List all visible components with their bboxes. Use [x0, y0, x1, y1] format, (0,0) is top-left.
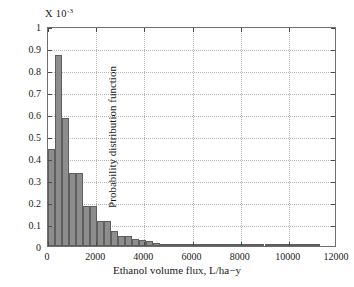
gridline-vertical — [289, 28, 290, 246]
histogram-bar — [76, 173, 83, 246]
gridline-horizontal — [48, 160, 335, 161]
histogram-bar — [69, 173, 76, 246]
gridline-horizontal — [48, 116, 335, 117]
x-axis-tick-top — [48, 28, 49, 32]
x-axis-tick — [48, 242, 49, 246]
y-axis-scale-label: X 10-3 — [45, 8, 73, 19]
histogram-bar — [90, 206, 97, 246]
histogram-bar — [83, 206, 90, 246]
histogram-bar — [251, 244, 258, 246]
y-axis-tick-right — [331, 182, 335, 183]
scale-exponent: -3 — [67, 7, 73, 15]
y-axis-tick-label: 0.7 — [0, 88, 41, 99]
histogram-bar — [306, 244, 313, 246]
histogram-bar — [118, 236, 125, 246]
x-axis-tick-label: 4000 — [133, 251, 153, 262]
y-axis-tick-right — [331, 204, 335, 205]
gridline-vertical — [241, 28, 242, 246]
y-axis-tick-label: 0.5 — [0, 132, 41, 143]
histogram-bar — [244, 244, 251, 246]
x-axis-tick-label: 10000 — [275, 251, 300, 262]
x-axis-tick — [241, 242, 242, 246]
y-axis-tick-label: 1 — [0, 22, 41, 33]
histogram-bar — [55, 55, 62, 246]
y-axis-tick-right — [331, 50, 335, 51]
histogram-bar — [223, 244, 230, 246]
x-axis-title: Ethanol volume flux, L/ha−y — [0, 264, 354, 276]
y-axis-tick-label: 0.4 — [0, 154, 41, 165]
x-axis-tick — [193, 242, 194, 246]
y-axis-tick — [48, 50, 52, 51]
y-axis-tick — [48, 72, 52, 73]
histogram-bar — [230, 244, 237, 246]
histogram-bar — [62, 118, 69, 246]
histogram-bar — [181, 244, 188, 246]
y-axis-tick-label: 0 — [0, 242, 41, 253]
histogram-bar — [132, 239, 139, 246]
y-axis-tick — [48, 116, 52, 117]
x-axis-tick — [144, 242, 145, 246]
gridline-vertical — [144, 28, 145, 246]
x-axis-tick-top — [144, 28, 145, 32]
y-axis-tick-label: 0.1 — [0, 220, 41, 231]
x-axis-tick — [289, 242, 290, 246]
gridline-horizontal — [48, 138, 335, 139]
histogram-bar — [209, 244, 216, 246]
gridline-vertical — [193, 28, 194, 246]
x-axis-tick-top — [289, 28, 290, 32]
y-axis-tick-right — [331, 160, 335, 161]
gridline-horizontal — [48, 50, 335, 51]
histogram-figure: X 10-3 00.10.20.30.40.50.60.70.80.91 020… — [0, 0, 354, 287]
histogram-bar — [278, 244, 285, 246]
y-axis-tick-label: 0.8 — [0, 66, 41, 77]
histogram-bar — [202, 244, 209, 246]
scale-mantissa: X 10 — [45, 8, 67, 19]
histogram-bar — [216, 244, 223, 246]
histogram-bar — [292, 244, 299, 246]
plot-area — [47, 27, 336, 247]
y-axis-tick-right — [331, 94, 335, 95]
y-axis-tick — [48, 138, 52, 139]
y-axis-tick-label: 0.9 — [0, 44, 41, 55]
x-axis-tick-top — [193, 28, 194, 32]
x-axis-tick-top — [241, 28, 242, 32]
histogram-bar — [313, 244, 320, 246]
gridline-horizontal — [48, 204, 335, 205]
histogram-bar — [258, 244, 265, 246]
x-axis-tick-label: 8000 — [230, 251, 250, 262]
y-axis-tick-label: 0.3 — [0, 176, 41, 187]
histogram-bar — [188, 244, 195, 246]
y-axis-tick-label: 0.2 — [0, 198, 41, 209]
gridline-horizontal — [48, 94, 335, 95]
histogram-bar — [174, 244, 181, 246]
x-axis-tick-label: 2000 — [85, 251, 105, 262]
y-axis-tick-right — [331, 28, 335, 29]
x-axis-tick-label: 6000 — [182, 251, 202, 262]
x-axis-tick-label: 12000 — [324, 251, 349, 262]
y-axis-tick — [48, 226, 52, 227]
y-axis-tick-right — [331, 226, 335, 227]
y-axis-tick-right — [331, 72, 335, 73]
histogram-bar — [48, 149, 55, 246]
histogram-bar — [160, 244, 167, 246]
histogram-bar — [195, 244, 202, 246]
histogram-bar — [265, 244, 272, 246]
y-axis-tick — [48, 204, 52, 205]
histogram-bar — [146, 241, 153, 246]
y-axis-tick — [48, 182, 52, 183]
histogram-bar — [125, 236, 132, 246]
y-axis-tick — [48, 94, 52, 95]
histogram-bar — [97, 221, 104, 246]
gridline-horizontal — [48, 72, 335, 73]
y-axis-tick-right — [331, 138, 335, 139]
histogram-bar — [271, 244, 278, 246]
x-axis-tick — [96, 242, 97, 246]
histogram-bar — [167, 244, 174, 246]
y-axis-tick — [48, 160, 52, 161]
gridline-horizontal — [48, 182, 335, 183]
x-axis-tick-top — [96, 28, 97, 32]
x-axis-tick-label: 0 — [45, 251, 50, 262]
histogram-bar — [153, 243, 160, 246]
y-axis-tick-label: 0.6 — [0, 110, 41, 121]
y-axis-tick-right — [331, 116, 335, 117]
